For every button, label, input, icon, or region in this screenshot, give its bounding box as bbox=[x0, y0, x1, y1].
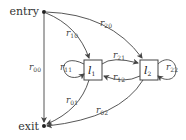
entry-terminal: entry bbox=[10, 5, 47, 18]
edge-label-r11: r11 bbox=[60, 62, 72, 73]
edge-label-r00: r00 bbox=[29, 62, 41, 73]
edge-label-r21: r21 bbox=[113, 50, 125, 61]
diagram-canvas: entry exit l1 l2 r00 r10 r20 bbox=[0, 0, 186, 140]
exit-dot bbox=[42, 124, 46, 128]
entry-dot bbox=[42, 10, 46, 14]
entry-label: entry bbox=[10, 5, 40, 18]
edge-r20 bbox=[46, 12, 142, 58]
edge-r02 bbox=[47, 80, 143, 126]
edge-label-r22: r22 bbox=[166, 62, 178, 73]
exit-label: exit bbox=[18, 120, 39, 133]
edge-label-r20: r20 bbox=[100, 18, 112, 29]
edge-label-r01: r01 bbox=[66, 95, 78, 106]
node-l2: l2 bbox=[140, 60, 158, 80]
node-l1: l1 bbox=[84, 60, 102, 80]
exit-terminal: exit bbox=[18, 120, 46, 133]
edge-label-r12: r12 bbox=[113, 72, 125, 83]
edge-label-r02: r02 bbox=[96, 105, 108, 116]
